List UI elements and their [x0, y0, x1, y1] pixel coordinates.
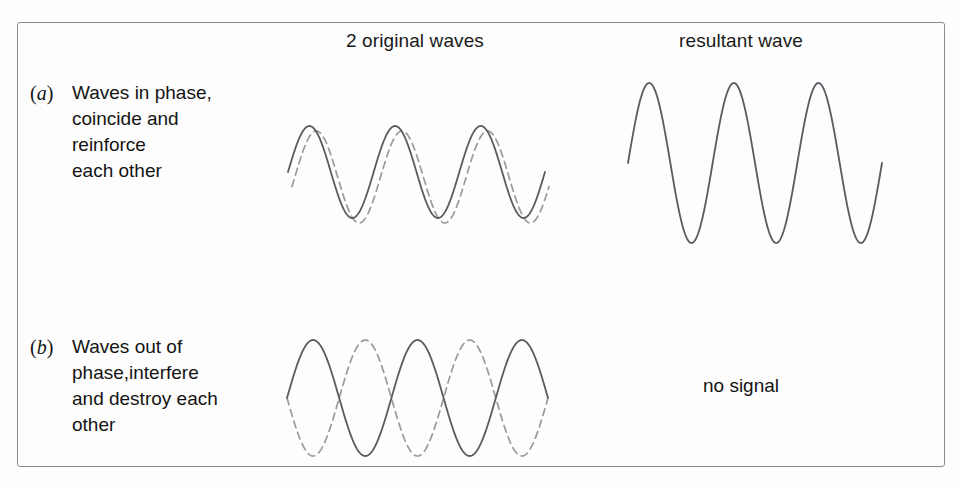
caption-row-b-letter: b [37, 336, 47, 358]
caption-row-a-letter: a [37, 82, 47, 104]
column-header-resultant-wave: resultant wave [628, 30, 854, 52]
caption-line: and destroy each [72, 386, 218, 412]
column-header-original-waves: 2 original waves [300, 30, 530, 52]
caption-line: each other [72, 158, 212, 184]
caption-line: Waves in phase, [72, 80, 212, 106]
caption-row-b-tag: (b) [30, 334, 53, 360]
caption-row-a-lines: Waves in phase, coincide and reinforce e… [72, 80, 212, 184]
caption-row-a-paren-open: ( [30, 82, 37, 104]
resultant-no-signal-label: no signal [628, 375, 854, 397]
caption-line: reinforce [72, 132, 212, 158]
caption-line: coincide and [72, 106, 212, 132]
caption-row-b: (b) Waves out of phase,interfere and des… [30, 334, 218, 438]
caption-row-b-paren-open: ( [30, 336, 37, 358]
caption-row-a-tag: (a) [30, 80, 53, 106]
caption-row-a: (a) Waves in phase, coincide and reinfor… [30, 80, 212, 184]
caption-line: phase,interfere [72, 360, 218, 386]
caption-row-b-paren-close: ) [47, 336, 54, 358]
wave-a-resultant-solid [628, 83, 882, 243]
caption-row-a-paren-close: ) [47, 82, 54, 104]
wave-plot-row-a-resultant [615, 68, 905, 268]
wave-a-dashed [292, 131, 549, 223]
caption-line: Waves out of [72, 334, 218, 360]
caption-line: other [72, 412, 218, 438]
wave-plot-row-a-original [275, 110, 575, 240]
wave-a-solid [288, 126, 545, 218]
caption-row-b-lines: Waves out of phase,interfere and destroy… [72, 334, 218, 438]
wave-plot-row-b-original [275, 332, 575, 468]
wave-interference-figure: 2 original waves resultant wave (a) Wave… [0, 0, 963, 489]
